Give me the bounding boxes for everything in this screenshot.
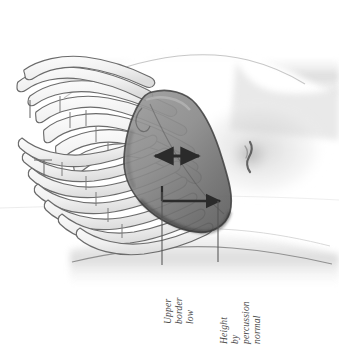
upper-border-low-line-2: border [174,297,185,324]
height-percussion-line-2: by [230,301,241,344]
height-by-percussion-normal-label: Height by percussion normal [219,301,263,344]
upper-border-low-label: Upper border low [163,297,196,324]
liver-percussion-figure: Upper border low Height by percussion no… [0,0,339,349]
upper-border-low-line-3: low [185,297,196,324]
upper-border-low-line-1: Upper [163,297,174,324]
height-percussion-line-1: Height [219,301,230,344]
umbilicus [226,133,274,177]
height-percussion-line-3: percussion [241,301,252,344]
height-percussion-line-4: normal [252,301,263,344]
